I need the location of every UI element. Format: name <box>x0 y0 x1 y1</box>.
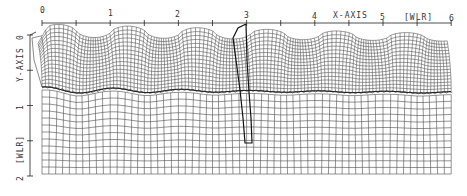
x-tick-3: 3 <box>244 12 250 20</box>
x-tick-4: 4 <box>312 13 318 21</box>
x-tick-5: 5 <box>380 14 386 22</box>
x-tick-6: 6 <box>449 15 455 23</box>
y-axis-unit: [WLR] <box>17 135 25 164</box>
upper-layer-grid <box>32 24 451 93</box>
y-tick-0: 0 <box>17 34 25 40</box>
x-tick-2: 2 <box>175 11 181 19</box>
x-tick-1: 1 <box>108 10 114 18</box>
deformed-grid-plot <box>0 0 467 196</box>
x-axis-unit: [WLR] <box>404 14 433 22</box>
lower-layer-grid <box>42 90 451 174</box>
x-tick-0: 0 <box>40 7 46 15</box>
y-tick-1: 1 <box>17 104 25 110</box>
y-tick-2: 2 <box>17 175 25 181</box>
x-axis-title: X-AXIS <box>333 12 368 20</box>
y-axis-title: Y-AXIS <box>17 47 25 82</box>
